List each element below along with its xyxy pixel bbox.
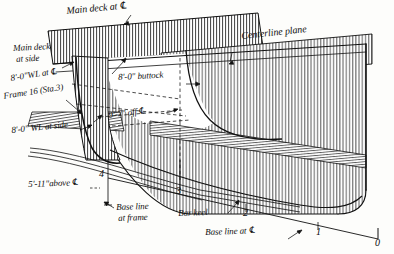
drawing-canvas: Main deck at ℄ Centerline plane Main dec… [0, 0, 394, 254]
label-main-deck-at-side-line2: at side [16, 54, 40, 65]
label-base-line-at-centerline: Base line at ℄ [205, 226, 255, 237]
station-number-1: 1 [316, 226, 321, 237]
station-number-2: 2 [243, 207, 248, 218]
label-bar-keel: Bar keel [178, 208, 208, 218]
label-base-line-at-frame-line2: at frame [118, 213, 148, 223]
base-line-frame [104, 160, 112, 205]
station-number-3: 3 [176, 185, 181, 196]
station-number-4: 4 [99, 168, 104, 179]
label-main-deck-at-side-line1: Main deck [13, 42, 50, 53]
label-base-line-at-frame-line1: Base line [116, 202, 149, 213]
station-number-0: 0 [375, 237, 380, 248]
label-above-centerline: 5'-11"above ℄ [28, 178, 78, 189]
